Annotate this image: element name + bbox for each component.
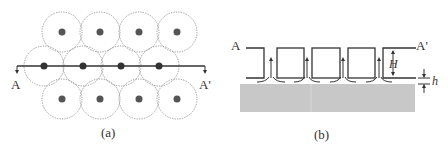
arrow-down-icon [15,70,19,74]
center-dot [59,96,66,103]
arrow-down-icon [203,70,207,74]
center-dot [59,29,66,36]
center-dot [97,29,104,36]
center-dot [174,29,181,36]
arrow-up-icon [305,57,309,61]
label-h: h [432,74,438,88]
panel-a-hexagonal-array: A A' (a) [11,12,211,140]
arrow-down-icon [391,72,395,76]
caption-a: (a) [101,125,115,140]
center-dot [136,96,143,103]
label-a: A [11,77,21,92]
label-a-prime: A' [416,38,428,53]
label-a-prime: A' [199,77,211,92]
substrate [240,84,415,112]
arrow-up-icon [422,84,426,88]
panel-b-cross-section: H h A A' (b) [231,38,438,142]
arrow-up-icon [377,57,381,61]
arrow-up-icon [269,57,273,61]
arrow-down-icon [422,74,426,78]
arrow-up-icon [341,57,345,61]
dimension-h [418,69,430,93]
figure: A A' (a) [0,0,448,149]
center-dot [97,96,104,103]
center-dot [174,96,181,103]
center-dot [136,29,143,36]
label-H: H [388,57,399,71]
arrow-up-icon [391,50,395,54]
caption-b: (b) [314,127,329,142]
label-a: A [231,38,241,53]
